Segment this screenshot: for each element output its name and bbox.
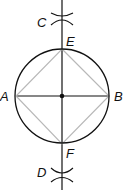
label-a: A [0, 89, 9, 104]
label-c: C [37, 15, 47, 30]
geometry-diagram: C E A B F D [0, 0, 125, 190]
label-f: F [66, 146, 75, 161]
label-b: B [114, 89, 123, 104]
label-d: D [37, 165, 46, 180]
label-e: E [66, 34, 75, 49]
center-point [60, 94, 65, 99]
